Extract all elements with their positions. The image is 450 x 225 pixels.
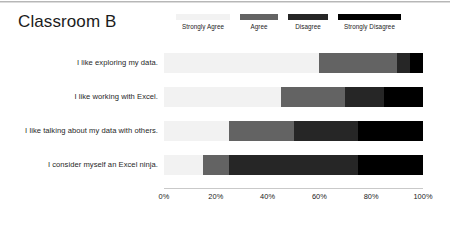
legend-item-label: Strongly Agree	[182, 23, 224, 30]
bar-segment-agree[interactable]	[319, 53, 397, 73]
bar-segment-disagree[interactable]	[229, 155, 359, 175]
bar-segment-strongly-disagree[interactable]	[410, 53, 423, 73]
category-labels: I like exploring my data.I like working …	[0, 50, 158, 188]
bar-segment-agree[interactable]	[281, 87, 346, 107]
x-axis-line	[164, 188, 423, 189]
category-label: I consider myself an Excel ninja.	[0, 160, 158, 169]
top-divider-shadow	[0, 2, 450, 3]
x-axis-tick-labels: 0%20%40%60%80%100%	[164, 192, 423, 206]
legend-swatch-icon	[240, 14, 278, 20]
axis-tick-label: 40%	[260, 192, 275, 201]
axis-tick-label: 0%	[159, 192, 170, 201]
bar-row	[164, 155, 423, 175]
bar-row	[164, 53, 423, 73]
axis-tick-label: 100%	[413, 192, 432, 201]
legend-swatch-icon	[288, 14, 328, 20]
bar-segment-disagree[interactable]	[345, 87, 384, 107]
axis-tick-label: 20%	[208, 192, 223, 201]
bar-segment-agree[interactable]	[229, 121, 294, 141]
bar-segment-strongly-agree[interactable]	[164, 87, 281, 107]
bar-segment-disagree[interactable]	[294, 121, 359, 141]
legend-swatch-icon	[176, 14, 230, 20]
category-label: I like talking about my data with others…	[0, 126, 158, 135]
legend-item-agree[interactable]: Agree	[240, 14, 278, 30]
chart-container: Classroom B Strongly AgreeAgreeDisagreeS…	[0, 0, 450, 225]
bar-segment-agree[interactable]	[203, 155, 229, 175]
plot-area	[164, 50, 423, 188]
bar-segment-disagree[interactable]	[397, 53, 410, 73]
bar-segment-strongly-agree[interactable]	[164, 121, 229, 141]
axis-tick-label: 80%	[364, 192, 379, 201]
bar-segment-strongly-disagree[interactable]	[358, 155, 423, 175]
legend-item-label: Agree	[250, 23, 267, 30]
legend-item-strongly-agree[interactable]: Strongly Agree	[176, 14, 230, 30]
bar-segment-strongly-disagree[interactable]	[384, 87, 423, 107]
legend-item-label: Disagree	[295, 23, 321, 30]
legend-swatch-icon	[338, 14, 401, 20]
bar-segment-strongly-disagree[interactable]	[358, 121, 423, 141]
axis-tick-label: 60%	[312, 192, 327, 201]
chart-legend: Strongly AgreeAgreeDisagreeStrongly Disa…	[176, 14, 401, 30]
page-title: Classroom B	[18, 12, 116, 32]
bar-row	[164, 121, 423, 141]
bar-row	[164, 87, 423, 107]
legend-item-strongly-disagree[interactable]: Strongly Disagree	[338, 14, 401, 30]
bar-segment-strongly-agree[interactable]	[164, 53, 319, 73]
bar-segment-strongly-agree[interactable]	[164, 155, 203, 175]
legend-item-label: Strongly Disagree	[344, 23, 395, 30]
category-label: I like working with Excel.	[0, 92, 158, 101]
category-label: I like exploring my data.	[0, 58, 158, 67]
legend-item-disagree[interactable]: Disagree	[288, 14, 328, 30]
